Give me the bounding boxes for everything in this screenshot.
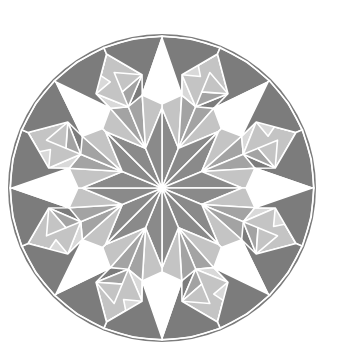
quilt-medallion xyxy=(0,0,338,361)
medallion-drawing xyxy=(0,0,338,361)
tile-group xyxy=(10,36,314,340)
